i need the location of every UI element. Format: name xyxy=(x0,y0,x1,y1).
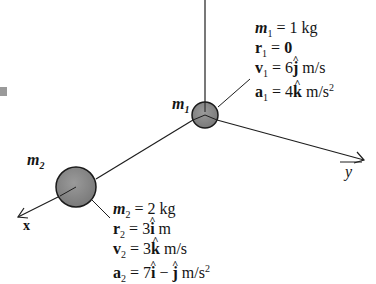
sup: 2 xyxy=(329,82,334,93)
val: 0 xyxy=(284,39,292,56)
x-axis-label: x xyxy=(23,216,30,236)
sym: v xyxy=(255,59,263,76)
mass2-mass-row: m2 = 2 kg xyxy=(113,199,210,219)
sym: a xyxy=(255,83,263,100)
minus: − xyxy=(155,264,172,281)
m1-leader-line xyxy=(218,79,250,107)
y-axis-label: y xyxy=(345,162,352,182)
edge-mark xyxy=(0,87,7,96)
eq: = xyxy=(272,19,289,36)
sym: m xyxy=(255,19,267,36)
eq: = xyxy=(125,220,142,237)
unit-vector-i: i xyxy=(151,263,155,283)
unit-vector-j: j xyxy=(173,263,178,283)
unit: m/s xyxy=(298,59,325,76)
sym: a xyxy=(113,264,121,281)
unit: m/s xyxy=(178,264,205,281)
eq: = xyxy=(126,264,143,281)
sup: 2 xyxy=(205,263,210,274)
sym: v xyxy=(113,240,121,257)
eq: = xyxy=(268,59,285,76)
m2-leader-line xyxy=(92,200,110,218)
mass2-label-sym: m xyxy=(27,151,39,168)
mass2-label: m2 xyxy=(27,150,44,176)
x-axis-segment xyxy=(96,120,193,179)
mass1-label-sym: m xyxy=(172,95,184,112)
mass1-mass-row: m1 = 1 kg xyxy=(255,18,334,38)
eq: = xyxy=(267,39,284,56)
mass1-properties: m1 = 1 kg r1 = 0 v1 = 6j m/s a1 = 4k m/s… xyxy=(255,18,334,98)
mass1-label-sub: 1 xyxy=(184,104,189,115)
val: 4 xyxy=(285,83,293,100)
mass2-properties: m2 = 2 kg r2 = 3i m v2 = 3k m/s a2 = 7i … xyxy=(113,199,210,279)
y-axis xyxy=(217,120,364,160)
eq: = xyxy=(126,240,143,257)
unit-vector-k: k xyxy=(293,82,302,102)
mass1-label: m1 xyxy=(172,94,189,120)
eq: = xyxy=(130,200,147,217)
val: 1 kg xyxy=(289,19,317,36)
mass1-acceleration-row: a1 = 4k m/s2 xyxy=(255,78,334,98)
sym: m xyxy=(113,200,125,217)
mass2-position-row: r2 = 3i m xyxy=(113,219,210,239)
mass2-acceleration-row: a2 = 7i − j m/s2 xyxy=(113,259,210,279)
unit: m/s xyxy=(302,83,329,100)
mass2-velocity-row: v2 = 3k m/s xyxy=(113,239,210,259)
x-axis xyxy=(18,196,60,217)
mass2-label-sub: 2 xyxy=(39,160,44,171)
eq: = xyxy=(268,83,285,100)
